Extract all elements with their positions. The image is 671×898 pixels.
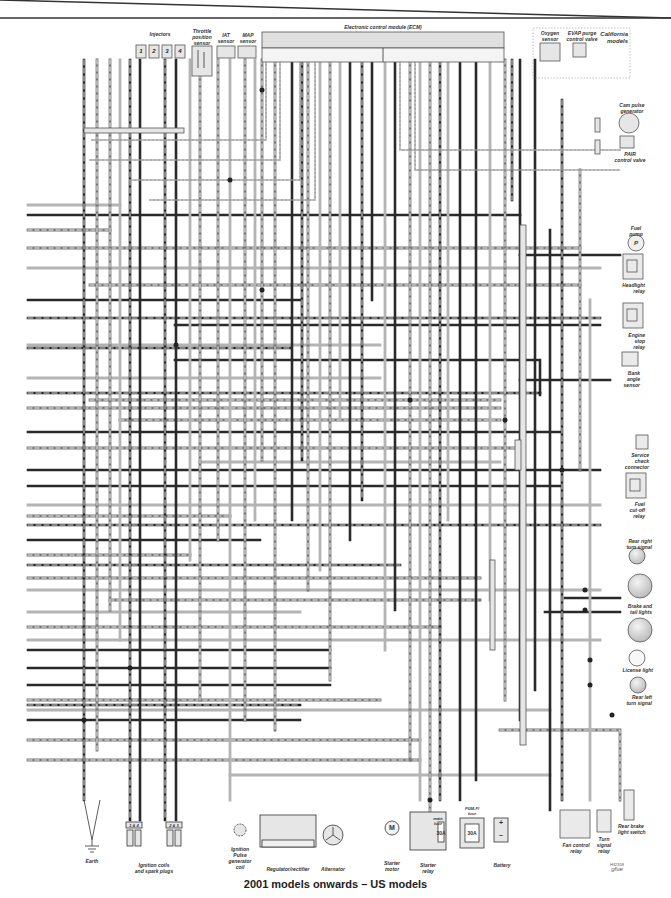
label-bank-angle-sensor: Bank angle sensor bbox=[600, 370, 640, 388]
brake-tail-bulb-1 bbox=[628, 574, 652, 598]
turn-signal-relay-box bbox=[597, 810, 611, 832]
oxygen-sensor bbox=[540, 43, 560, 61]
injector-4-number: 4 bbox=[176, 48, 184, 54]
wire-harness bbox=[28, 60, 620, 820]
battery-plus-symbol: + bbox=[496, 820, 506, 826]
label-starter-relay: Starter relay bbox=[410, 862, 446, 874]
label-main-fuse: main fuse bbox=[430, 816, 446, 826]
label-regulator-rectifier: Regulator/rectifier bbox=[260, 866, 316, 872]
fan-control-relay-box bbox=[560, 810, 590, 838]
injector-2-number: 2 bbox=[150, 48, 158, 54]
label-evap-purge-control-valve: EVAP purge control valve bbox=[566, 30, 598, 42]
label-ignition-coils: Ignition coils and spark plugs bbox=[130, 862, 178, 874]
label-alternator: Alternator bbox=[318, 866, 348, 872]
label-injectors: Injectors bbox=[140, 31, 180, 37]
header-rule bbox=[0, 0, 671, 18]
artist-signature: gfue bbox=[611, 866, 623, 872]
fuel-cutoff-relay bbox=[626, 473, 646, 498]
label-ignition-pulse-generator: Ignition Pulse generator coil bbox=[226, 846, 254, 870]
starter-relay-fuse-rating: 30A bbox=[434, 830, 448, 836]
ignition-pulse-gear bbox=[234, 824, 246, 836]
label-starter-motor: Starter motor bbox=[378, 860, 406, 872]
starter-motor-symbol-text: M bbox=[388, 825, 396, 831]
label-fuel-cutoff-relay: Fuel cut-off relay bbox=[605, 501, 645, 519]
rear-brake-switch bbox=[624, 790, 634, 820]
headlight-relay bbox=[623, 254, 643, 279]
cam-pulse-generator bbox=[619, 113, 639, 133]
label-cam-pulse-generator: Cam pulse generator bbox=[612, 102, 652, 114]
rear-left-turn-bulb bbox=[630, 677, 646, 693]
label-turn-signal-relay: Turn signal relay bbox=[592, 836, 616, 854]
label-pair-control-valve: PAIR control valve bbox=[610, 151, 650, 163]
label-license-light: License light bbox=[605, 667, 653, 673]
label-iat-sensor: IAT sensor bbox=[214, 32, 238, 44]
brake-tail-bulb-2 bbox=[628, 618, 652, 642]
throttle-position-sensor bbox=[192, 46, 212, 76]
reference-code: H32358gfue bbox=[610, 862, 624, 872]
label-map-sensor: MAP sensor bbox=[236, 32, 260, 44]
ecm-box bbox=[262, 32, 504, 62]
label-pgm-fi-fuse: PGM-FI fuse bbox=[458, 806, 486, 816]
map-sensor bbox=[238, 46, 256, 58]
label-brake-tail-lights: Brake and tail lights bbox=[610, 603, 652, 615]
bank-angle-sensor bbox=[622, 352, 638, 366]
label-headlight-relay: Headlight relay bbox=[605, 282, 645, 294]
label-service-check-connector: Service check connector bbox=[605, 452, 649, 470]
label-oxygen-sensor: Oxygen sensor bbox=[536, 30, 564, 42]
pair-control-valve bbox=[620, 136, 634, 148]
coil-pair-2-3: 2 & 3 bbox=[168, 823, 180, 829]
evap-purge-valve bbox=[573, 43, 586, 57]
label-earth: Earth bbox=[80, 858, 104, 864]
earth-symbol bbox=[84, 800, 100, 852]
pgm-fi-fuse-rating: 30A bbox=[464, 830, 480, 836]
injector-3-number: 3 bbox=[163, 48, 171, 54]
injector-1-number: 1 bbox=[137, 48, 145, 54]
diagram-caption: 2001 models onwards – US models bbox=[0, 878, 671, 890]
label-fuel-pump: Fuel pump bbox=[618, 225, 654, 237]
label-battery: Battery bbox=[488, 862, 516, 868]
license-light-bulb bbox=[629, 650, 645, 666]
rear-right-turn-bulb bbox=[629, 548, 645, 564]
battery-minus-symbol: – bbox=[496, 832, 506, 838]
fuel-pump-symbol: P bbox=[632, 240, 640, 246]
label-california-models: California models bbox=[596, 31, 628, 45]
label-rear-right-turn-signal: Rear right turn signal bbox=[610, 538, 652, 550]
label-rear-left-turn-signal: Rear left turn signal bbox=[610, 694, 652, 706]
service-check-connector bbox=[636, 435, 648, 449]
label-ecm: Electronic control module (ECM) bbox=[262, 24, 504, 30]
engine-stop-relay bbox=[623, 303, 643, 328]
label-fan-control-relay: Fan control relay bbox=[556, 842, 596, 854]
label-engine-stop-relay: Engine stop relay bbox=[605, 332, 645, 350]
iat-sensor bbox=[217, 46, 235, 58]
coil-pair-1-4: 1 & 4 bbox=[128, 823, 140, 829]
wiring-diagram bbox=[0, 0, 671, 898]
label-rear-brake-light-switch: Rear brake light switch bbox=[618, 823, 668, 835]
